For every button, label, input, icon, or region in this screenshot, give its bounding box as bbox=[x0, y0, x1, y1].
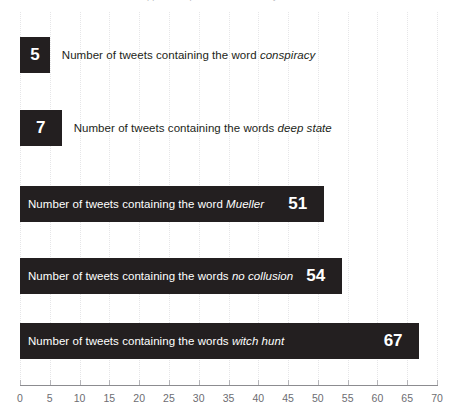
x-axis-tick-mark bbox=[80, 380, 81, 385]
x-axis-tick-mark bbox=[20, 380, 21, 385]
bar-category-label: Number of tweets containing the words wi… bbox=[28, 323, 284, 359]
x-axis-tick-mark bbox=[50, 380, 51, 385]
bar-category-label: Number of tweets containing the word con… bbox=[62, 37, 316, 73]
bar-row: 51Number of tweets containing the word M… bbox=[0, 186, 456, 222]
x-axis-tick-mark bbox=[258, 380, 259, 385]
bar-row: 54Number of tweets containing the words … bbox=[0, 258, 456, 294]
x-axis-tick-mark bbox=[169, 380, 170, 385]
x-axis-tick-label: 5 bbox=[47, 392, 53, 404]
x-axis-tick-label: 25 bbox=[163, 392, 175, 404]
bar-value-label: 5 bbox=[20, 37, 50, 73]
x-axis-tick-label: 40 bbox=[252, 392, 264, 404]
bar-value-label: 7 bbox=[20, 110, 62, 146]
x-axis-tick-label: 70 bbox=[431, 392, 443, 404]
x-axis-tick-label: 55 bbox=[342, 392, 354, 404]
x-axis-tick-mark bbox=[109, 380, 110, 385]
x-axis-line bbox=[20, 385, 438, 386]
x-axis-tick-mark bbox=[318, 380, 319, 385]
horizontal-bar-chart: 0510152025303540455055606570 5Number of … bbox=[0, 0, 456, 418]
x-axis-tick-mark bbox=[407, 380, 408, 385]
x-axis-tick-label: 15 bbox=[104, 392, 116, 404]
x-axis-tick-label: 65 bbox=[401, 392, 413, 404]
x-axis-tick-label: 50 bbox=[312, 392, 324, 404]
bar-row: 67Number of tweets containing the words … bbox=[0, 323, 456, 359]
x-axis-tick-label: 30 bbox=[193, 392, 205, 404]
x-axis-tick-mark bbox=[377, 380, 378, 385]
x-axis-tick-mark bbox=[199, 380, 200, 385]
bar-row: 7Number of tweets containing the words d… bbox=[0, 110, 456, 146]
x-axis-tick-mark bbox=[229, 380, 230, 385]
x-axis-tick-label: 0 bbox=[17, 392, 23, 404]
bar-value-label: 67 bbox=[377, 323, 409, 359]
x-axis-tick-mark bbox=[139, 380, 140, 385]
bar-category-label: Number of tweets containing the words de… bbox=[74, 110, 332, 146]
x-axis-tick-mark bbox=[437, 380, 438, 385]
bar-value-label: 54 bbox=[300, 258, 332, 294]
x-axis-tick-label: 20 bbox=[133, 392, 145, 404]
x-axis-tick-label: 10 bbox=[74, 392, 86, 404]
x-axis-tick-mark bbox=[288, 380, 289, 385]
bar-category-label: Number of tweets containing the words no… bbox=[28, 258, 293, 294]
bar-row: 5Number of tweets containing the word co… bbox=[0, 37, 456, 73]
x-axis-tick-label: 45 bbox=[282, 392, 294, 404]
bar-value-label: 51 bbox=[282, 186, 314, 222]
bar-category-label: Number of tweets containing the word Mue… bbox=[28, 186, 264, 222]
x-axis-tick-mark bbox=[348, 380, 349, 385]
x-axis-tick-label: 35 bbox=[223, 392, 235, 404]
x-axis-tick-label: 60 bbox=[372, 392, 384, 404]
